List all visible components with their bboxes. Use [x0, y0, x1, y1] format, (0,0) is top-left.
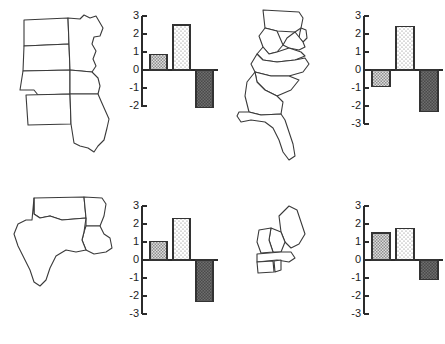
bar-series3[interactable]	[196, 70, 213, 108]
chart-bottom-left: 3 2 1 0 -1 -2 -3	[114, 176, 220, 340]
bars-bottom-right	[372, 229, 438, 280]
state-iowa	[70, 70, 100, 94]
bar-series3[interactable]	[420, 70, 438, 111]
state-minnesota	[68, 15, 103, 72]
state-connecticut	[257, 261, 274, 273]
y-axis-bottom-left: 3 2 1 0 -1 -2 -3	[129, 199, 147, 319]
south-atlantic-map	[225, 2, 331, 170]
y-tick-label-neg3: -3	[129, 307, 139, 319]
bar-series1[interactable]	[372, 233, 390, 260]
bar-series3[interactable]	[196, 260, 213, 301]
y-tick-label-neg1: -1	[129, 81, 139, 93]
y-axis-top-left: 3 2 1 0 -1 -2	[129, 9, 147, 111]
state-nebraska	[20, 70, 70, 95]
y-tick-label-neg1: -1	[129, 271, 139, 283]
y-tick-label-neg3: -3	[351, 117, 361, 129]
bars-top-right	[372, 27, 438, 112]
map-outline-group	[237, 10, 309, 160]
y-tick-label-neg2: -2	[351, 289, 361, 301]
y-tick-label-neg3: -3	[351, 307, 361, 319]
state-south-dakota	[23, 44, 70, 71]
west-south-central-map-svg	[6, 190, 122, 310]
state-kansas	[26, 94, 71, 125]
state-north-dakota	[24, 18, 69, 46]
bar-series1[interactable]	[150, 241, 167, 260]
map-outline-group	[257, 206, 305, 273]
bar-series1[interactable]	[150, 55, 167, 70]
y-tick-label-2: 2	[355, 27, 361, 39]
y-tick-label-3: 3	[133, 9, 139, 21]
state-oklahoma	[34, 197, 86, 220]
y-tick-label-1: 1	[355, 45, 361, 57]
y-tick-label-neg2: -2	[351, 99, 361, 111]
west-south-central-map	[6, 190, 122, 310]
panel-top-left: 3 2 1 0 -1 -2	[0, 0, 222, 172]
y-tick-label-0: 0	[355, 253, 361, 265]
chart-bottom-right-svg: 3 2 1 0 -1 -2 -3	[319, 176, 445, 340]
map-outline-group	[20, 15, 109, 152]
y-tick-label-1: 1	[133, 235, 139, 247]
bar-series2[interactable]	[173, 25, 190, 70]
new-england-map-svg	[233, 198, 331, 306]
chart-top-right-svg: 3 2 1 0 -1 -2 -3	[319, 4, 445, 168]
bars-bottom-left	[150, 219, 213, 302]
y-tick-label-neg2: -2	[129, 289, 139, 301]
y-tick-label-neg1: -1	[351, 271, 361, 283]
y-axis-top-right: 3 2 1 0 -1 -2 -3	[351, 9, 369, 129]
y-tick-label-1: 1	[133, 45, 139, 57]
chart-top-left-svg: 3 2 1 0 -1 -2	[114, 4, 220, 168]
west-north-central-map	[8, 6, 120, 166]
bar-series3[interactable]	[420, 260, 438, 280]
y-axis-bottom-right: 3 2 1 0 -1 -2 -3	[351, 199, 369, 319]
state-florida	[237, 112, 295, 160]
state-missouri	[70, 94, 109, 152]
panel-bottom-left: 3 2 1 0 -1 -2 -3	[0, 172, 222, 344]
chart-top-right: 3 2 1 0 -1 -2 -3	[319, 4, 445, 168]
state-rhode-island	[274, 260, 281, 272]
state-arkansas	[84, 197, 106, 226]
y-tick-label-3: 3	[355, 199, 361, 211]
west-north-central-map-svg	[8, 6, 120, 166]
y-tick-label-0: 0	[355, 63, 361, 75]
y-tick-label-neg2: -2	[129, 99, 139, 111]
new-england-map	[233, 198, 331, 306]
bar-series2[interactable]	[396, 27, 414, 70]
y-tick-label-2: 2	[355, 217, 361, 229]
bar-series2[interactable]	[173, 219, 190, 260]
chart-bottom-left-svg: 3 2 1 0 -1 -2 -3	[114, 176, 220, 340]
y-tick-label-3: 3	[133, 199, 139, 211]
y-tick-label-0: 0	[133, 253, 139, 265]
bar-series1[interactable]	[372, 70, 390, 86]
y-tick-label-1: 1	[355, 235, 361, 247]
y-tick-label-0: 0	[133, 63, 139, 75]
south-atlantic-map-svg	[225, 2, 331, 170]
chart-bottom-right: 3 2 1 0 -1 -2 -3	[319, 176, 445, 340]
y-tick-label-3: 3	[355, 9, 361, 21]
map-outline-group	[14, 197, 112, 286]
bars-top-left	[150, 25, 213, 108]
y-tick-label-2: 2	[133, 27, 139, 39]
panel-bottom-right: 3 2 1 0 -1 -2 -3	[223, 172, 445, 344]
y-tick-label-2: 2	[133, 217, 139, 229]
bar-series2[interactable]	[396, 229, 414, 261]
y-tick-label-neg1: -1	[351, 81, 361, 93]
panel-top-right: 3 2 1 0 -1 -2 -3	[223, 0, 445, 172]
chart-top-left: 3 2 1 0 -1 -2	[114, 4, 220, 168]
